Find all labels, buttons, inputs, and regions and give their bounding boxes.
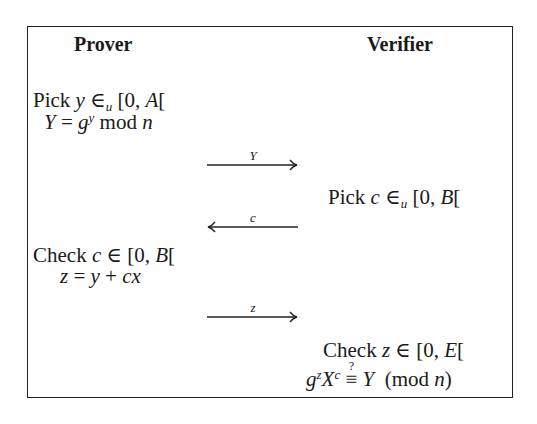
- left-arrow-icon: [207, 220, 299, 234]
- questioned-equivalence: ?≡: [345, 368, 357, 390]
- prover-column-header: Prover: [74, 33, 133, 55]
- verifier-check-z: Check z ∈ [0, E[: [323, 339, 464, 361]
- verifier-pick-c: Pick c ∈u [0, B[: [328, 186, 460, 208]
- prover-check-c: Check c ∈ [0, B[: [33, 244, 175, 266]
- prover-pick-y: Pick y ∈u [0, A[: [33, 89, 165, 111]
- verifier-column-header: Verifier: [367, 33, 433, 55]
- right-arrow-icon: [207, 158, 299, 172]
- message-arrow-z: z: [207, 304, 299, 326]
- message-arrow-c: c: [207, 214, 299, 236]
- verifier-verification-equation: gzXc ?≡ Y (mod n): [306, 368, 452, 390]
- prover-commitment-Y: Y = gy mod n: [44, 111, 153, 133]
- prover-response-z: z = y + cx: [60, 265, 141, 287]
- right-arrow-icon: [207, 310, 299, 324]
- message-arrow-Y: Y: [207, 152, 299, 174]
